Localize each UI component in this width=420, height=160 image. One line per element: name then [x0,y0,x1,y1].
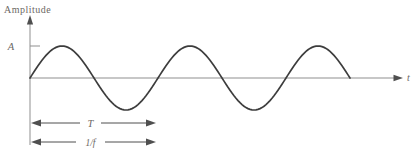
period-arrow-right-head-icon [146,120,156,127]
y-axis-title: Amplitude [4,4,51,15]
x-axis-arrowhead-icon [394,75,404,82]
amplitude-label: A [7,41,15,52]
inverse-frequency-arrow-right-head-icon [146,139,156,146]
y-axis-arrowhead-icon [27,15,33,25]
sine-wave-figure: Amplitude A t T 1/f [0,0,420,160]
inverse-frequency-arrow-left-head-icon [31,139,41,146]
period-arrow-left-head-icon [31,120,41,127]
x-axis-label: t [407,72,410,83]
inverse-frequency-label: 1/f [85,138,96,148]
figure-canvas: Amplitude A t T 1/f [0,0,420,160]
